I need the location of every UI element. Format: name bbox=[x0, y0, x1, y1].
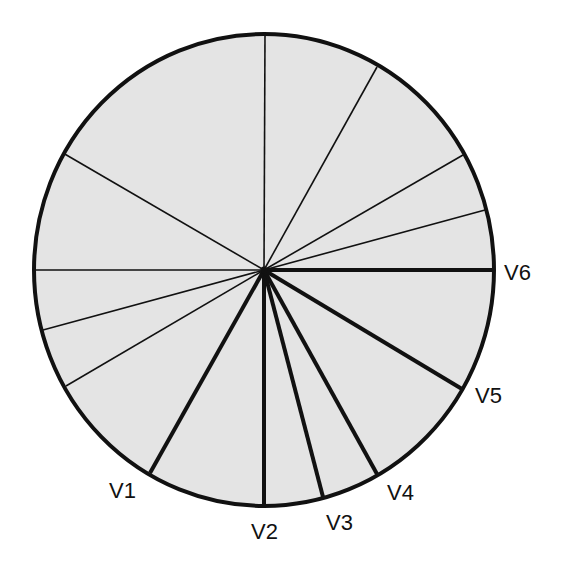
label-v3: V3 bbox=[326, 510, 353, 535]
label-v4: V4 bbox=[387, 480, 414, 505]
label-v1: V1 bbox=[109, 478, 136, 503]
thin-spoke bbox=[264, 34, 265, 270]
pie-diagram: V1V2V3V4V5V6 bbox=[0, 0, 561, 563]
center-hub bbox=[261, 267, 268, 274]
label-v6: V6 bbox=[504, 260, 531, 285]
label-v5: V5 bbox=[475, 383, 502, 408]
diagram-canvas: V1V2V3V4V5V6 bbox=[0, 0, 561, 563]
label-v2: V2 bbox=[251, 519, 278, 544]
